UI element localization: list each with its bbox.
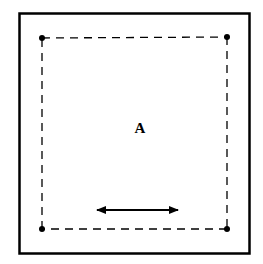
corner-point-bottom-right — [224, 226, 230, 232]
region-label: A — [135, 120, 146, 136]
corner-point-top-left — [39, 35, 45, 41]
corner-point-bottom-left — [39, 226, 45, 232]
corner-point-top-right — [224, 34, 230, 40]
diagram-canvas: A — [0, 0, 263, 264]
